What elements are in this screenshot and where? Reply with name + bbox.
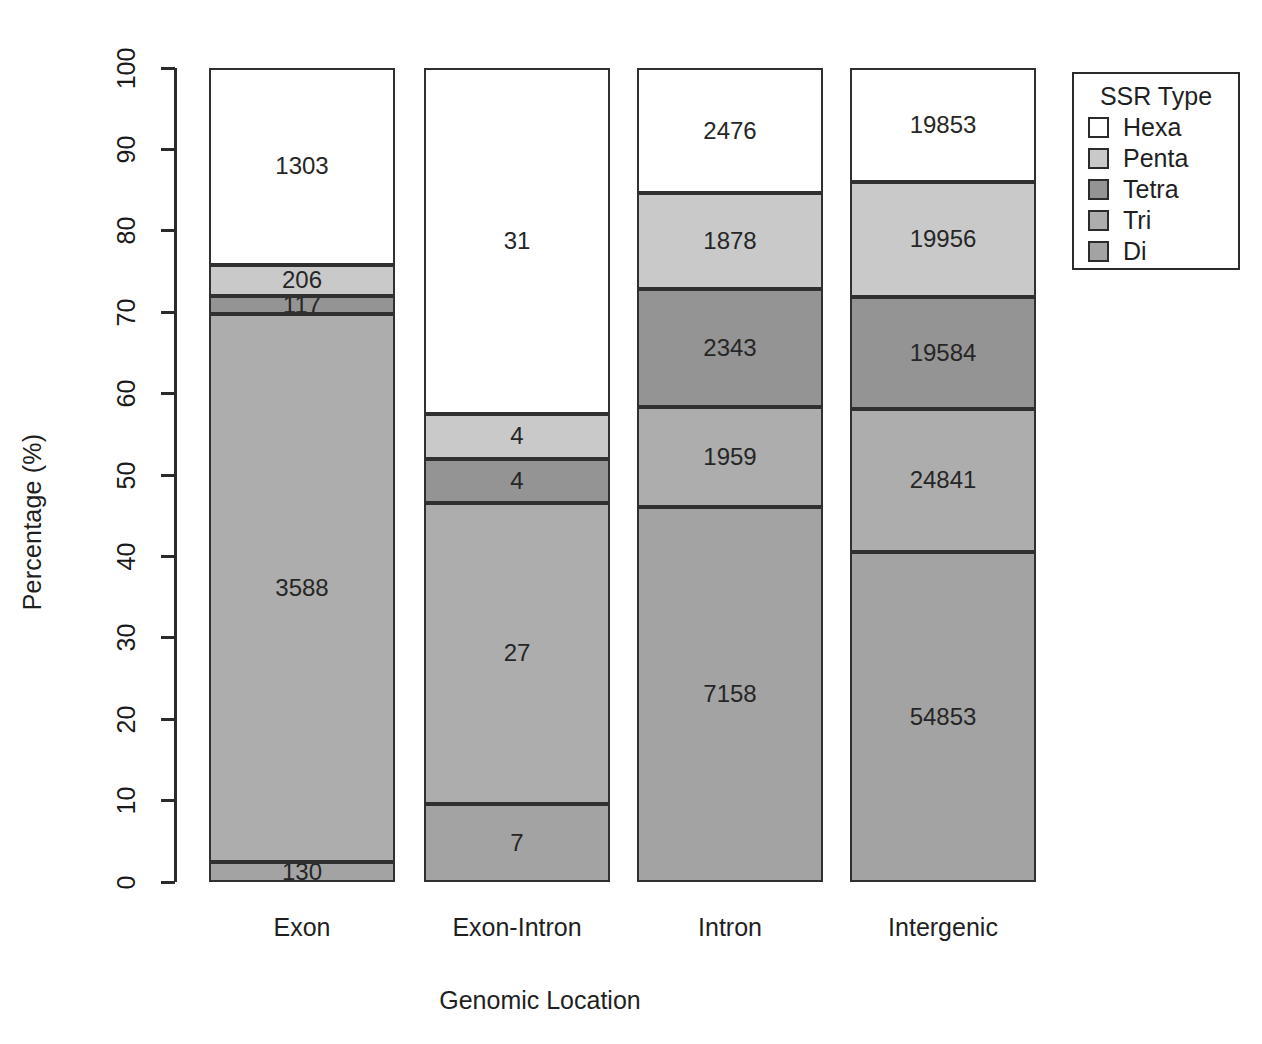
legend-label-tetra: Tetra [1123,177,1179,202]
bar-segment-value: 7158 [703,682,756,706]
y-axis-tick-label: 30 [96,623,158,653]
bar-segment-penta: 1878 [637,193,823,288]
bar-exon: 13032061173588130 [209,68,395,882]
y-axis-tick-label: 80 [96,216,158,246]
bar-segment-value: 4 [510,424,523,448]
legend-title: SSR Type [1074,82,1238,111]
x-axis-label-intergenic: Intergenic [810,913,1076,942]
legend-swatch-tetra [1088,179,1109,200]
y-axis-tick-label: 40 [96,541,158,571]
bar-segment-penta: 19956 [850,182,1036,297]
legend: SSR Type HexaPentaTetraTriDi [1072,72,1240,270]
bar-segment-di: 7158 [637,507,823,882]
y-axis-tick-label: 90 [96,134,158,164]
bar-segment-value: 19584 [910,341,977,365]
bar-segment-tri: 1959 [637,407,823,506]
bar-segment-hexa: 19853 [850,68,1036,182]
legend-item-penta: Penta [1088,143,1188,173]
y-axis-tick-label: 50 [96,460,158,490]
y-axis-tick [161,799,175,802]
y-axis-tick [161,392,175,395]
y-axis-tick [161,229,175,232]
legend-item-di: Di [1088,236,1147,266]
stacked-bar-chart: Percentage (%) 1009080706050403020100 13… [0,0,1262,1044]
y-axis-tick-label: 0 [96,867,158,897]
bar-segment-hexa: 2476 [637,68,823,193]
x-axis-title: Genomic Location [0,986,1080,1015]
y-axis-tick [161,67,175,70]
y-axis-tick [161,636,175,639]
y-axis-tick-label: 100 [96,53,158,83]
bar-segment-hexa: 1303 [209,68,395,265]
bar-segment-di: 130 [209,862,395,882]
bar-segment-value: 27 [504,641,531,665]
y-axis-tick [161,474,175,477]
bar-segment-value: 206 [282,268,322,292]
bar-exon-intron: 3144277 [424,68,610,882]
bar-segment-value: 117 [283,296,321,314]
bar-segment-tri: 24841 [850,409,1036,551]
bar-segment-value: 7 [510,831,523,855]
y-axis-tick [161,311,175,314]
bar-segment-value: 2476 [703,119,756,143]
bar-segment-value: 19956 [910,227,977,251]
bar-intergenic: 1985319956195842484154853 [850,68,1036,882]
legend-item-tri: Tri [1088,205,1151,235]
y-axis-tick-label: 60 [96,379,158,409]
bar-segment-value: 4 [510,469,523,493]
bar-segment-hexa: 31 [424,68,610,414]
bar-segment-value: 1959 [703,445,756,469]
legend-swatch-penta [1088,148,1109,169]
legend-label-tri: Tri [1123,208,1151,233]
bar-intron: 24761878234319597158 [637,68,823,882]
y-axis-tick-label: 20 [96,704,158,734]
legend-label-di: Di [1123,239,1147,264]
bar-segment-tri: 27 [424,503,610,804]
bar-segment-tetra: 19584 [850,297,1036,409]
bar-segment-di: 54853 [850,552,1036,882]
y-axis-tick [161,718,175,721]
bar-segment-tri: 3588 [209,314,395,863]
y-axis-tick [161,148,175,151]
y-axis-tick [161,555,175,558]
y-axis-title: Percentage (%) [0,0,64,1044]
legend-item-tetra: Tetra [1088,174,1179,204]
bar-segment-tetra: 2343 [637,289,823,408]
y-axis-tick [161,881,175,884]
legend-swatch-di [1088,241,1109,262]
legend-swatch-tri [1088,210,1109,231]
bar-segment-tetra: 117 [209,296,395,314]
legend-label-hexa: Hexa [1123,115,1181,140]
bar-segment-value: 54853 [910,705,977,729]
bar-segment-value: 3588 [275,576,328,600]
bar-segment-di: 7 [424,804,610,882]
bar-segment-value: 24841 [910,468,977,492]
bar-segment-penta: 206 [209,265,395,296]
legend-label-penta: Penta [1123,146,1188,171]
legend-item-hexa: Hexa [1088,112,1181,142]
bar-segment-value: 1878 [703,229,756,253]
legend-swatch-hexa [1088,117,1109,138]
bar-segment-penta: 4 [424,414,610,459]
bar-segment-value: 19853 [910,113,977,137]
y-axis-tick-label: 10 [96,786,158,816]
bar-segment-value: 31 [504,229,531,253]
bar-segment-value: 1303 [275,154,328,178]
y-axis-tick-label: 70 [96,297,158,327]
bar-segment-tetra: 4 [424,459,610,503]
bar-segment-value: 2343 [703,336,756,360]
bar-segment-value: 130 [282,862,322,882]
